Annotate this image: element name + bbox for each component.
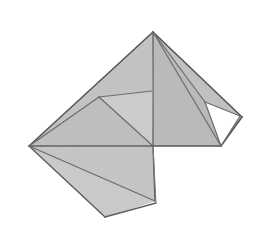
figure-canvas xyxy=(0,0,265,246)
origami-figure xyxy=(0,0,265,246)
